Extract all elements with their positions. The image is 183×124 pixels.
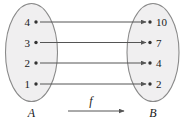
set-a-dot-4: [34, 82, 37, 85]
set-a-element-label: 1: [25, 78, 31, 90]
function-label: f: [89, 94, 94, 108]
set-a-element-label: 2: [25, 57, 31, 69]
set-a-dot-2: [34, 41, 37, 44]
set-b-dot-4: [148, 82, 151, 85]
set-a-dot-1: [34, 20, 37, 23]
set-b-dot-1: [148, 20, 151, 23]
set-a-label: A: [27, 106, 36, 120]
set-b-ellipse: [127, 4, 179, 102]
set-a-ellipse: [6, 4, 58, 102]
set-a-dot-3: [34, 61, 37, 64]
set-b-label: B: [149, 106, 157, 120]
set-a-element-label: 3: [25, 37, 31, 49]
set-b-element-label: 7: [156, 37, 162, 49]
set-b-dot-3: [148, 61, 151, 64]
set-a-element-label: 4: [25, 16, 31, 28]
set-b-element-label: 10: [156, 16, 168, 28]
set-b-element-label: 4: [156, 57, 162, 69]
set-b-element-label: 2: [156, 78, 162, 90]
function-mapping-figure: 4 3 2 1 10 7 4 2 A B f: [0, 0, 183, 124]
set-b-dot-2: [148, 41, 151, 44]
